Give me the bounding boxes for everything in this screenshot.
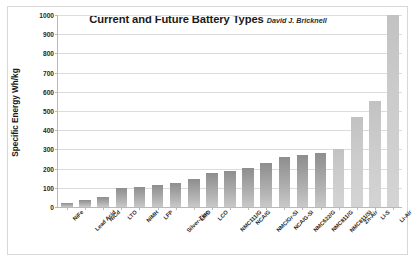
bar[interactable] <box>369 101 381 207</box>
bar-slot <box>239 15 257 207</box>
plot-area: 01002003004005006007008009001000 <box>57 15 402 208</box>
x-axis-tick-label: LFP <box>162 209 174 221</box>
y-axis-tick-mark <box>55 207 58 208</box>
bar[interactable] <box>152 185 164 207</box>
bar[interactable] <box>279 157 291 207</box>
bar[interactable] <box>134 187 146 207</box>
bar-slot <box>330 15 348 207</box>
bar[interactable] <box>260 163 272 207</box>
bar-slot <box>149 15 167 207</box>
bar[interactable] <box>206 173 218 207</box>
x-axis-tick-label: LCO <box>217 209 230 222</box>
bar[interactable] <box>333 149 345 207</box>
x-axis-tick-label: LMO <box>199 209 212 222</box>
bar-slot <box>366 15 384 207</box>
bar-slot <box>76 15 94 207</box>
bar-slot <box>94 15 112 207</box>
bar-slot <box>112 15 130 207</box>
y-axis-tick-label: 300 <box>43 146 54 153</box>
y-axis-tick-label: 900 <box>43 31 54 38</box>
bar-slot <box>384 15 402 207</box>
bar[interactable] <box>97 197 109 207</box>
x-axis-tick-label: NiMH <box>145 209 159 223</box>
bar[interactable] <box>351 117 363 207</box>
y-axis-tick-label: 100 <box>43 184 54 191</box>
x-axis-tick-label: Li-S <box>379 209 391 221</box>
bar-slot <box>311 15 329 207</box>
bar-slot <box>185 15 203 207</box>
bar-slot <box>58 15 76 207</box>
chart-canvas: Current and Future Battery TypesDavid J.… <box>0 0 416 262</box>
x-axis-labels: NiFeLead AcidNiCdLTONiMHLFPSilver-ZincLM… <box>57 209 401 257</box>
bar-slot <box>275 15 293 207</box>
y-axis-tick-label: 1000 <box>39 12 54 19</box>
bar-slot <box>348 15 366 207</box>
y-axis-tick-label: 400 <box>43 127 54 134</box>
bar-slot <box>130 15 148 207</box>
bar-slot <box>257 15 275 207</box>
bar[interactable] <box>315 153 327 207</box>
bar[interactable] <box>170 183 182 207</box>
y-axis-title-text: Specific Energy Wh/kg <box>11 68 20 156</box>
bar[interactable] <box>297 155 309 207</box>
bar[interactable] <box>188 179 200 207</box>
x-axis-tick-label: NiFe <box>72 209 85 222</box>
bars-layer <box>58 15 402 207</box>
bar[interactable] <box>242 168 254 207</box>
bar[interactable] <box>79 200 91 207</box>
bar[interactable] <box>387 15 399 207</box>
y-axis-tick-label: 800 <box>43 50 54 57</box>
y-axis-tick-label: 500 <box>43 108 54 115</box>
bar[interactable] <box>224 171 236 207</box>
bar-slot <box>167 15 185 207</box>
x-axis-tick-label: LTO <box>126 209 138 221</box>
bar-slot <box>293 15 311 207</box>
y-axis-tick-label: 200 <box>43 165 54 172</box>
y-axis-tick-label: 0 <box>50 204 54 211</box>
bar[interactable] <box>116 188 128 207</box>
y-axis-tick-label: 700 <box>43 69 54 76</box>
bar-slot <box>221 15 239 207</box>
y-axis-title: Specific Energy Wh/kg <box>8 22 22 202</box>
bar-slot <box>203 15 221 207</box>
y-axis-tick-label: 600 <box>43 88 54 95</box>
